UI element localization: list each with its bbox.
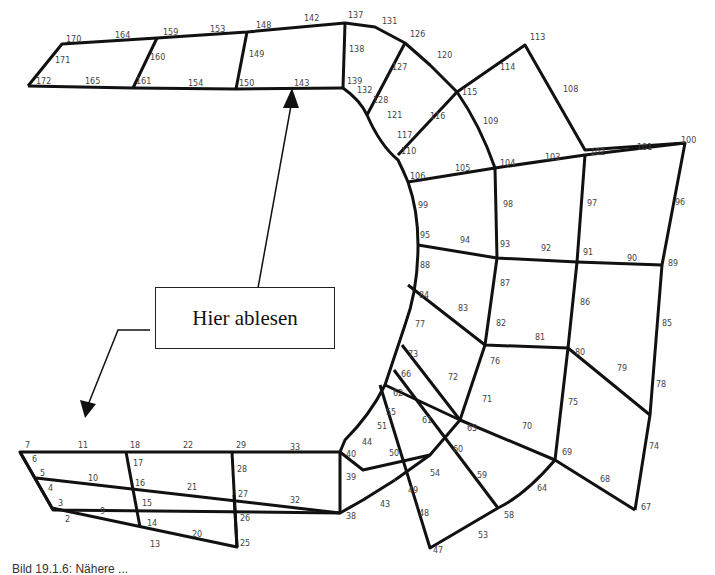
svg-text:10: 10	[88, 474, 98, 483]
svg-text:55: 55	[386, 408, 396, 417]
svg-text:49: 49	[408, 486, 418, 495]
svg-text:5: 5	[40, 469, 45, 478]
svg-text:137: 137	[348, 11, 363, 20]
svg-text:26: 26	[240, 514, 250, 523]
svg-text:18: 18	[130, 441, 140, 450]
svg-text:13: 13	[150, 540, 160, 549]
svg-text:89: 89	[668, 259, 678, 268]
svg-text:143: 143	[294, 79, 309, 88]
svg-text:67: 67	[641, 503, 651, 512]
arrow-head-down-icon	[80, 400, 96, 418]
svg-text:110: 110	[401, 147, 416, 156]
svg-text:114: 114	[500, 63, 515, 72]
svg-text:47: 47	[433, 546, 443, 555]
svg-text:131: 131	[382, 17, 397, 26]
svg-text:120: 120	[437, 51, 452, 60]
svg-text:127: 127	[392, 63, 407, 72]
svg-text:79: 79	[617, 364, 627, 373]
svg-text:90: 90	[627, 254, 637, 263]
svg-text:153: 153	[210, 25, 225, 34]
svg-text:121: 121	[387, 111, 402, 120]
svg-text:116: 116	[430, 112, 445, 121]
mesh-diagram: 170164159 153148142 137131126 120171160 …	[0, 0, 715, 575]
svg-text:28: 28	[237, 465, 247, 474]
svg-text:97: 97	[587, 199, 597, 208]
svg-text:51: 51	[377, 422, 387, 431]
node-labels: 170164159 153148142 137131126 120171160 …	[25, 11, 696, 555]
svg-text:25: 25	[240, 539, 250, 548]
mesh-lines	[20, 23, 685, 548]
svg-text:159: 159	[163, 28, 178, 37]
svg-text:64: 64	[537, 484, 547, 493]
svg-text:59: 59	[477, 471, 487, 480]
svg-text:4: 4	[48, 484, 53, 493]
svg-text:75: 75	[568, 398, 578, 407]
svg-text:170: 170	[66, 35, 81, 44]
svg-text:53: 53	[478, 531, 488, 540]
svg-text:85: 85	[662, 319, 672, 328]
svg-text:77: 77	[415, 320, 425, 329]
svg-text:95: 95	[420, 231, 430, 240]
svg-text:29: 29	[236, 441, 246, 450]
svg-text:27: 27	[238, 490, 248, 499]
svg-text:38: 38	[346, 512, 356, 521]
svg-text:76: 76	[490, 357, 500, 366]
svg-text:48: 48	[419, 509, 429, 518]
svg-text:32: 32	[290, 496, 300, 505]
svg-text:150: 150	[239, 79, 254, 88]
svg-text:154: 154	[188, 79, 203, 88]
svg-text:33: 33	[290, 443, 300, 452]
svg-text:139: 139	[347, 77, 362, 86]
svg-text:103: 103	[545, 153, 560, 162]
svg-text:80: 80	[575, 348, 585, 357]
svg-text:16: 16	[135, 479, 145, 488]
svg-text:78: 78	[656, 380, 666, 389]
svg-text:88: 88	[420, 261, 430, 270]
svg-text:161: 161	[136, 77, 151, 86]
svg-text:65: 65	[467, 424, 477, 433]
svg-text:54: 54	[430, 469, 440, 478]
svg-text:68: 68	[600, 475, 610, 484]
svg-text:71: 71	[482, 395, 492, 404]
svg-text:94: 94	[460, 236, 470, 245]
svg-text:117: 117	[397, 131, 412, 140]
svg-text:91: 91	[583, 248, 593, 257]
svg-text:60: 60	[453, 445, 463, 454]
svg-text:11: 11	[78, 441, 88, 450]
svg-text:105: 105	[455, 164, 470, 173]
svg-text:74: 74	[649, 442, 659, 451]
svg-text:81: 81	[535, 333, 545, 342]
svg-text:3: 3	[58, 499, 63, 508]
svg-text:44: 44	[362, 438, 372, 447]
svg-text:2: 2	[65, 515, 70, 524]
svg-text:21: 21	[187, 483, 197, 492]
arrow-head-up-icon	[283, 88, 299, 108]
svg-text:104: 104	[500, 159, 515, 168]
svg-text:86: 86	[580, 298, 590, 307]
figure-caption: Bild 19.1.6: Nähere ...	[12, 562, 128, 575]
svg-text:113: 113	[530, 33, 545, 42]
svg-text:164: 164	[115, 31, 130, 40]
svg-text:15: 15	[142, 499, 152, 508]
svg-text:9: 9	[100, 507, 105, 516]
svg-text:61: 61	[422, 416, 432, 425]
svg-text:40: 40	[346, 450, 356, 459]
svg-text:93: 93	[500, 240, 510, 249]
svg-text:6: 6	[32, 455, 37, 464]
svg-text:106: 106	[410, 172, 425, 181]
svg-text:126: 126	[410, 30, 425, 39]
svg-text:84: 84	[419, 291, 429, 300]
svg-text:72: 72	[448, 373, 458, 382]
svg-text:172: 172	[36, 77, 51, 86]
svg-text:50: 50	[389, 449, 399, 458]
svg-text:70: 70	[522, 422, 532, 431]
svg-text:92: 92	[541, 244, 551, 253]
svg-text:69: 69	[562, 448, 572, 457]
svg-text:22: 22	[183, 441, 193, 450]
svg-text:62: 62	[393, 389, 403, 398]
svg-text:149: 149	[249, 50, 264, 59]
svg-text:142: 142	[304, 14, 319, 23]
svg-text:108: 108	[563, 85, 578, 94]
svg-text:132: 132	[357, 86, 372, 95]
svg-text:87: 87	[500, 279, 510, 288]
